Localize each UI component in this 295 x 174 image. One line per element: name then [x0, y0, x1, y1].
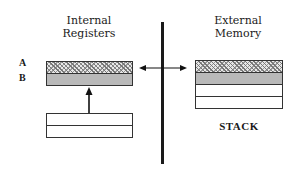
- register-label-b: B: [19, 72, 26, 83]
- external-heading-line1: External: [188, 14, 288, 27]
- internal-heading-line1: Internal: [39, 14, 139, 27]
- stack-cell-4: [195, 96, 283, 109]
- internal-external-divider: [161, 22, 164, 164]
- register-b: [46, 73, 133, 86]
- external-memory-heading: External Memory: [188, 14, 288, 40]
- external-heading-line2: Memory: [188, 27, 288, 40]
- internal-register-lower-2: [46, 125, 133, 138]
- internal-registers-heading: Internal Registers: [39, 14, 139, 40]
- stack-label: STACK: [194, 120, 284, 132]
- double-arrow-icon: [138, 63, 188, 73]
- internal-heading-line2: Registers: [39, 27, 139, 40]
- register-label-a: A: [19, 57, 26, 68]
- up-arrow-icon: [82, 86, 96, 116]
